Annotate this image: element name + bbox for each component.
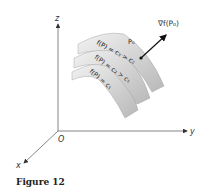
origin-label: O: [58, 135, 64, 144]
gradient-vector: [141, 35, 166, 58]
y-axis-label: y: [189, 127, 195, 136]
gradient-label: ∇f(P₀): [157, 19, 179, 28]
point-p0-label: P₀: [128, 38, 135, 46]
x-axis: [24, 131, 58, 163]
x-axis-label: x: [15, 161, 21, 170]
z-axis-label: z: [54, 14, 60, 23]
figure-caption: Figure 12: [16, 177, 65, 187]
level-surfaces-diagram: z y x O f(P) = c₃ > c₂ f(P) = c₂ > c₁ f(…: [0, 0, 212, 191]
